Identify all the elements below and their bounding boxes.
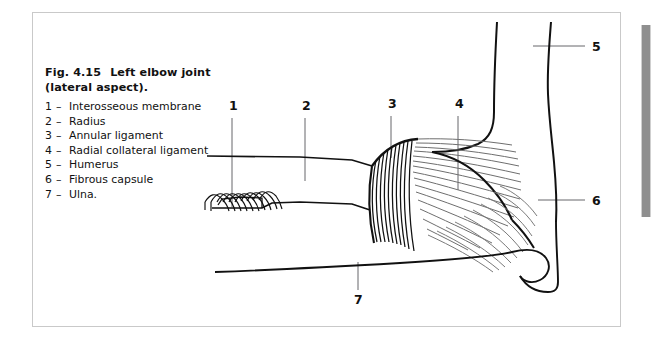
ulna-lower-border — [215, 250, 549, 282]
callout-label-1: 1 — [229, 98, 238, 113]
rcl-fiber — [418, 139, 512, 145]
humerus-posterior-border — [548, 22, 557, 222]
rcl-fiber — [413, 161, 521, 182]
annular-fiber — [409, 141, 414, 251]
humerus-anterior-border — [432, 22, 497, 152]
radial-collateral-ligament-fibers — [413, 139, 521, 250]
figure-page: Fig. 4.15Left elbow joint (lateral aspec… — [0, 0, 652, 344]
capsule-fiber — [500, 186, 537, 216]
ulna-bone — [215, 222, 558, 292]
radius-lower-border — [212, 202, 370, 210]
leader-lines — [232, 46, 585, 290]
capsule-fiber — [437, 231, 499, 270]
rcl-fiber — [415, 185, 514, 217]
callout-label-6: 6 — [592, 193, 601, 208]
callout-label-2: 2 — [302, 98, 311, 113]
rcl-fiber — [427, 229, 468, 250]
callout-label-7: 7 — [354, 292, 363, 307]
membrane-fiber-stub — [205, 202, 211, 211]
rcl-fiber — [416, 192, 508, 226]
callout-label-4: 4 — [455, 96, 464, 111]
elbow-joint-illustration — [0, 0, 652, 344]
annular-fiber — [404, 141, 409, 249]
callout-label-3: 3 — [388, 96, 397, 111]
callout-label-5: 5 — [592, 39, 601, 54]
annular-ligament — [369, 139, 418, 251]
capsule-fiber — [428, 235, 493, 272]
